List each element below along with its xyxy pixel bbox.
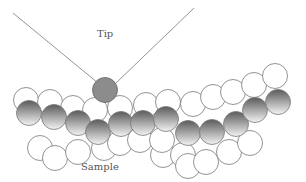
tip-left-edge — [13, 13, 98, 83]
tip-right-edge — [116, 8, 194, 83]
tip-label: Tip — [97, 28, 113, 39]
sample-atom-lower — [194, 150, 219, 175]
sample-atom-surface — [200, 120, 225, 145]
sample-atom-surface — [266, 90, 291, 115]
sample-atom-surface — [17, 101, 42, 126]
sample-atom-surface — [131, 111, 156, 136]
sample-atom-upper — [263, 64, 288, 89]
sample-atom-surface — [109, 112, 134, 137]
sample-atom-surface — [154, 107, 179, 132]
afm-diagram: Tip Sample — [0, 0, 306, 182]
sample-atom-surface — [243, 98, 268, 123]
sample-label: Sample — [81, 161, 119, 172]
sample-atom-surface — [86, 120, 111, 145]
sample-atom-surface — [42, 105, 67, 130]
sample-atom-surface — [176, 121, 201, 146]
sample-atom-lower — [43, 146, 68, 171]
tip-apex-atom — [93, 78, 118, 103]
